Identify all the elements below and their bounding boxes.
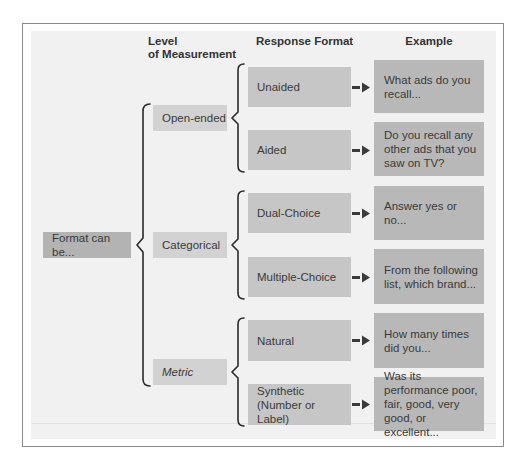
arrow-icons [352,83,370,410]
brace-categorical [232,191,244,299]
brace-metric [232,318,244,426]
connectors [0,0,521,468]
brace-open-ended [232,64,244,172]
brace-root [137,104,150,386]
